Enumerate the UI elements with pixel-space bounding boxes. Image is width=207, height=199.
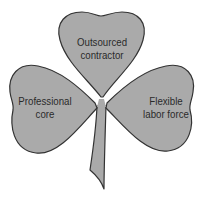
leaf-left-label-line1: Professional <box>11 95 80 108</box>
leaf-right-label-line1: Flexible <box>131 95 201 108</box>
leaf-junction <box>97 99 106 107</box>
leaf-right-label: Flexible labor force <box>131 95 201 121</box>
leaf-left-label-line2: core <box>11 108 80 121</box>
leaf-top-label-line2: contractor <box>65 49 139 62</box>
shamrock-diagram: Outsourced contractor Professional core … <box>0 0 207 199</box>
shamrock-stem <box>90 106 106 189</box>
leaf-right-label-line2: labor force <box>131 108 201 121</box>
leaf-top-label: Outsourced contractor <box>65 36 139 62</box>
leaf-top-label-line1: Outsourced <box>65 36 139 49</box>
leaf-left-label: Professional core <box>11 95 80 121</box>
